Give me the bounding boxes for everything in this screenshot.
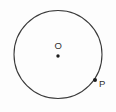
clipped-text-fragment-top: « <box>0 9 2 17</box>
point-p-label: P <box>99 79 105 88</box>
point-p-dot <box>93 78 97 82</box>
clipped-text-fragment-bottom: · <box>0 57 2 65</box>
center-point-label: O <box>55 41 62 50</box>
geometry-figure: O P « · · <box>0 0 116 112</box>
circle-diagram-canvas <box>0 0 116 112</box>
center-point-dot <box>56 54 59 57</box>
clipped-text-fragment-middle: · <box>0 37 2 45</box>
